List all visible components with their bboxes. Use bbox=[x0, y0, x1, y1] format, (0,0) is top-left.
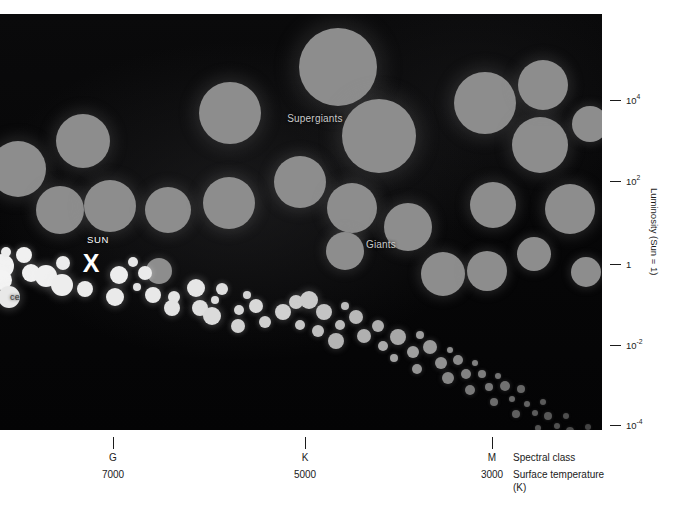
x-axis-temperature-label: 5000 bbox=[294, 469, 316, 480]
star-marker bbox=[585, 424, 591, 430]
star-marker bbox=[485, 383, 493, 391]
star-marker bbox=[77, 281, 93, 297]
star-marker bbox=[316, 304, 332, 320]
star-marker bbox=[211, 296, 219, 304]
star-marker bbox=[84, 180, 136, 232]
y-axis-tick bbox=[610, 345, 621, 346]
star-marker bbox=[299, 28, 377, 106]
star-marker bbox=[234, 305, 244, 315]
label-main-sequence-clipped: ce bbox=[10, 292, 20, 302]
star-marker bbox=[203, 177, 255, 229]
star-marker bbox=[540, 399, 546, 405]
star-marker bbox=[128, 257, 138, 267]
star-marker bbox=[478, 370, 486, 378]
y-axis-tick-label: 10-4 bbox=[626, 420, 643, 431]
star-marker bbox=[231, 319, 245, 333]
star-marker bbox=[571, 257, 601, 287]
star-marker bbox=[378, 341, 388, 351]
y-axis-tick-label: 1 bbox=[626, 259, 631, 270]
star-marker bbox=[512, 117, 568, 173]
star-marker bbox=[259, 316, 271, 328]
y-axis-tick-exponent: -2 bbox=[637, 338, 643, 345]
y-axis-tick bbox=[610, 425, 621, 426]
star-marker bbox=[106, 288, 124, 306]
star-marker bbox=[545, 184, 595, 234]
y-axis-tick-mantissa: 10 bbox=[626, 176, 637, 187]
star-marker bbox=[36, 186, 84, 234]
y-axis-tick bbox=[610, 100, 621, 101]
star-marker bbox=[249, 299, 263, 313]
star-marker bbox=[216, 283, 228, 295]
y-axis-title: Luminosity (Sun = 1) bbox=[649, 188, 660, 275]
star-marker bbox=[509, 396, 515, 402]
star-marker bbox=[51, 274, 73, 296]
star-marker bbox=[572, 106, 602, 142]
label-supergiants: Supergiants bbox=[287, 113, 343, 124]
y-axis-tick-label: 10-2 bbox=[626, 340, 643, 351]
star-marker bbox=[145, 187, 191, 233]
y-axis-tick-mantissa: 10 bbox=[626, 420, 637, 431]
y-axis-tick-mantissa: 1 bbox=[626, 259, 631, 270]
hr-diagram-figure: Supergiants Giants SUN X ce 104102110-21… bbox=[0, 0, 697, 508]
x-axis-tick bbox=[305, 437, 306, 449]
star-marker bbox=[535, 425, 541, 430]
star-marker bbox=[421, 252, 465, 296]
star-marker bbox=[563, 413, 569, 419]
star-marker bbox=[453, 355, 463, 365]
star-marker bbox=[495, 373, 501, 379]
star-marker bbox=[461, 369, 471, 379]
y-axis-tick bbox=[610, 181, 621, 182]
star-marker bbox=[275, 304, 291, 320]
star-marker bbox=[342, 99, 416, 173]
star-marker bbox=[326, 232, 364, 270]
star-marker bbox=[349, 310, 363, 324]
star-marker bbox=[435, 357, 447, 369]
y-axis-tick-mantissa: 10 bbox=[626, 340, 637, 351]
y-axis-tick-exponent: -4 bbox=[637, 418, 643, 425]
star-marker bbox=[274, 156, 326, 208]
star-marker bbox=[512, 410, 520, 418]
x-axis-tick bbox=[492, 437, 493, 449]
star-marker bbox=[390, 329, 406, 345]
x-axis-title-temperature-unit: (K) bbox=[513, 482, 526, 493]
star-marker bbox=[442, 372, 454, 384]
x-axis-tick bbox=[113, 437, 114, 449]
star-marker bbox=[412, 364, 422, 374]
star-marker bbox=[327, 183, 377, 233]
star-marker bbox=[390, 354, 398, 362]
star-marker bbox=[532, 410, 538, 416]
star-marker bbox=[145, 287, 161, 303]
star-marker bbox=[566, 427, 574, 430]
star-marker bbox=[295, 320, 305, 330]
x-axis-title-spectral-class: Spectral class bbox=[513, 452, 575, 463]
star-marker bbox=[300, 291, 318, 309]
label-giants: Giants bbox=[366, 239, 396, 250]
label-sun: SUN bbox=[87, 234, 109, 245]
star-marker bbox=[357, 329, 371, 343]
star-marker bbox=[517, 237, 551, 271]
star-marker bbox=[203, 307, 221, 325]
star-marker bbox=[416, 331, 424, 339]
y-axis-tick-exponent: 4 bbox=[637, 93, 641, 100]
star-marker bbox=[465, 385, 475, 395]
star-marker bbox=[490, 398, 498, 406]
star-marker bbox=[110, 266, 128, 284]
x-axis-temperature-label: 7000 bbox=[102, 469, 124, 480]
star-marker bbox=[554, 423, 560, 429]
star-marker bbox=[372, 320, 384, 332]
y-axis-tick-label: 102 bbox=[626, 176, 640, 187]
star-marker bbox=[500, 381, 510, 391]
star-marker bbox=[328, 333, 344, 349]
star-marker bbox=[56, 256, 70, 270]
sun-marker-x: X bbox=[77, 249, 105, 277]
x-axis-spectral-class-label: M bbox=[488, 452, 496, 463]
star-marker bbox=[187, 279, 205, 297]
star-marker bbox=[1, 247, 11, 257]
star-marker bbox=[243, 291, 251, 299]
star-marker bbox=[454, 72, 516, 134]
y-axis-tick-label: 104 bbox=[626, 95, 640, 106]
star-marker bbox=[335, 320, 345, 330]
star-marker bbox=[199, 82, 261, 144]
star-marker bbox=[518, 60, 568, 110]
plot-area: Supergiants Giants SUN X ce bbox=[0, 14, 602, 430]
